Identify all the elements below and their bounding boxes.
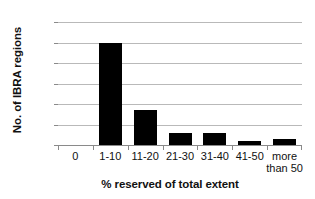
x-tick-label-6: more than 50 xyxy=(263,151,307,174)
bar xyxy=(203,133,226,145)
x-tick-mark-1 xyxy=(93,145,94,150)
x-tick-mark-4 xyxy=(197,145,198,150)
bar xyxy=(169,133,192,145)
x-tick-mark-0 xyxy=(58,145,59,150)
bar-chart: No. of IBRA regions 0102030405060 01-101… xyxy=(0,0,315,199)
plot-area: 0102030405060 xyxy=(58,22,302,145)
y-axis-title: No. of IBRA regions xyxy=(11,6,23,154)
bar xyxy=(99,43,122,146)
x-tick-mark-6 xyxy=(267,145,268,150)
x-tick-mark-5 xyxy=(232,145,233,150)
x-axis-tick-labels: 01-1011-2021-3031-4041-50more than 50 xyxy=(58,151,302,179)
x-axis-title: % reserved of total extent xyxy=(40,178,300,190)
bar-series xyxy=(58,22,302,145)
x-tick-mark-7 xyxy=(301,145,302,150)
x-tick-mark-2 xyxy=(128,145,129,150)
x-tick-mark-3 xyxy=(163,145,164,150)
bar xyxy=(134,110,157,145)
